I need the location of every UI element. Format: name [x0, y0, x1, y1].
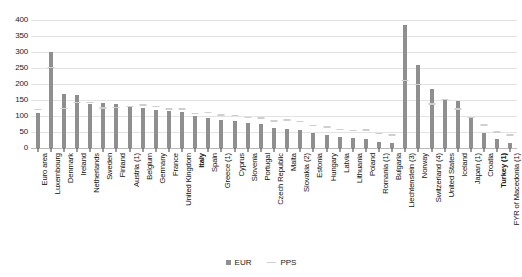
bar-eur[interactable] — [285, 129, 289, 148]
bar-eur[interactable] — [206, 118, 210, 148]
bar-eur[interactable] — [416, 65, 420, 148]
marker-pps[interactable] — [402, 80, 409, 81]
bar-group[interactable] — [84, 20, 97, 148]
marker-pps[interactable] — [192, 113, 199, 114]
bar-eur[interactable] — [180, 112, 184, 148]
marker-pps[interactable] — [389, 134, 396, 135]
marker-pps[interactable] — [126, 106, 133, 107]
marker-pps[interactable] — [415, 84, 422, 85]
marker-pps[interactable] — [323, 126, 330, 127]
marker-pps[interactable] — [507, 134, 514, 135]
bar-eur[interactable] — [62, 94, 66, 148]
bar-group[interactable] — [451, 20, 464, 148]
bar-group[interactable] — [31, 20, 44, 148]
marker-pps[interactable] — [336, 129, 343, 130]
marker-pps[interactable] — [376, 133, 383, 134]
marker-pps[interactable] — [481, 124, 488, 125]
bar-group[interactable] — [399, 20, 412, 148]
marker-pps[interactable] — [468, 117, 475, 118]
bar-eur[interactable] — [364, 139, 368, 148]
marker-pps[interactable] — [179, 108, 186, 109]
bar-eur[interactable] — [88, 104, 92, 148]
bar-eur[interactable] — [272, 128, 276, 148]
bar-group[interactable] — [97, 20, 110, 148]
marker-pps[interactable] — [73, 102, 80, 103]
marker-pps[interactable] — [218, 114, 225, 115]
bar-group[interactable] — [110, 20, 123, 148]
bar-group[interactable] — [504, 20, 517, 148]
marker-pps[interactable] — [165, 108, 172, 109]
marker-pps[interactable] — [152, 106, 159, 107]
bar-eur[interactable] — [351, 138, 355, 148]
marker-pps[interactable] — [257, 117, 264, 118]
bar-eur[interactable] — [482, 133, 486, 148]
bar-group[interactable] — [136, 20, 149, 148]
bar-group[interactable] — [57, 20, 70, 148]
marker-pps[interactable] — [297, 121, 304, 122]
bar-eur[interactable] — [298, 130, 302, 148]
bar-group[interactable] — [373, 20, 386, 148]
bar-group[interactable] — [412, 20, 425, 148]
bar-eur[interactable] — [495, 139, 499, 148]
bar-group[interactable] — [294, 20, 307, 148]
bar-group[interactable] — [359, 20, 372, 148]
bar-eur[interactable] — [246, 123, 250, 148]
bar-eur[interactable] — [311, 133, 315, 148]
marker-pps[interactable] — [139, 104, 146, 105]
bar-group[interactable] — [281, 20, 294, 148]
marker-pps[interactable] — [494, 131, 501, 132]
bar-group[interactable] — [149, 20, 162, 148]
bar-eur[interactable] — [193, 116, 197, 148]
bar-eur[interactable] — [443, 100, 447, 148]
bar-eur[interactable] — [114, 104, 118, 148]
bar-eur[interactable] — [167, 111, 171, 148]
bar-eur[interactable] — [403, 25, 407, 148]
marker-pps[interactable] — [310, 125, 317, 126]
bar-group[interactable] — [346, 20, 359, 148]
bar-group[interactable] — [254, 20, 267, 148]
marker-pps[interactable] — [428, 103, 435, 104]
bar-eur[interactable] — [233, 121, 237, 148]
bar-group[interactable] — [386, 20, 399, 148]
bar-eur[interactable] — [469, 117, 473, 148]
bar-eur[interactable] — [219, 120, 223, 148]
bar-group[interactable] — [425, 20, 438, 148]
marker-pps[interactable] — [441, 99, 448, 100]
bar-eur[interactable] — [36, 113, 40, 148]
marker-pps[interactable] — [87, 102, 94, 103]
bar-group[interactable] — [162, 20, 175, 148]
bar-eur[interactable] — [259, 124, 263, 148]
marker-pps[interactable] — [454, 108, 461, 109]
bar-group[interactable] — [464, 20, 477, 148]
bar-eur[interactable] — [101, 103, 105, 148]
bar-eur[interactable] — [128, 107, 132, 148]
bar-group[interactable] — [70, 20, 83, 148]
bar-group[interactable] — [491, 20, 504, 148]
marker-pps[interactable] — [270, 120, 277, 121]
bar-group[interactable] — [320, 20, 333, 148]
legend-entry-eur[interactable]: EUR — [226, 258, 252, 267]
marker-pps[interactable] — [349, 130, 356, 131]
marker-pps[interactable] — [244, 117, 251, 118]
marker-pps[interactable] — [60, 108, 67, 109]
marker-pps[interactable] — [100, 107, 107, 108]
bar-group[interactable] — [123, 20, 136, 148]
marker-pps[interactable] — [231, 115, 238, 116]
bar-group[interactable] — [175, 20, 188, 148]
marker-pps[interactable] — [113, 107, 120, 108]
bar-eur[interactable] — [430, 89, 434, 148]
bar-eur[interactable] — [141, 108, 145, 148]
bar-eur[interactable] — [338, 137, 342, 148]
marker-pps[interactable] — [47, 67, 54, 68]
bar-group[interactable] — [228, 20, 241, 148]
bar-group[interactable] — [333, 20, 346, 148]
bar-group[interactable] — [307, 20, 320, 148]
bar-group[interactable] — [241, 20, 254, 148]
marker-pps[interactable] — [362, 129, 369, 130]
bar-group[interactable] — [215, 20, 228, 148]
marker-pps[interactable] — [205, 112, 212, 113]
bar-group[interactable] — [44, 20, 57, 148]
bar-eur[interactable] — [325, 135, 329, 148]
marker-pps[interactable] — [34, 109, 41, 110]
bar-group[interactable] — [438, 20, 451, 148]
